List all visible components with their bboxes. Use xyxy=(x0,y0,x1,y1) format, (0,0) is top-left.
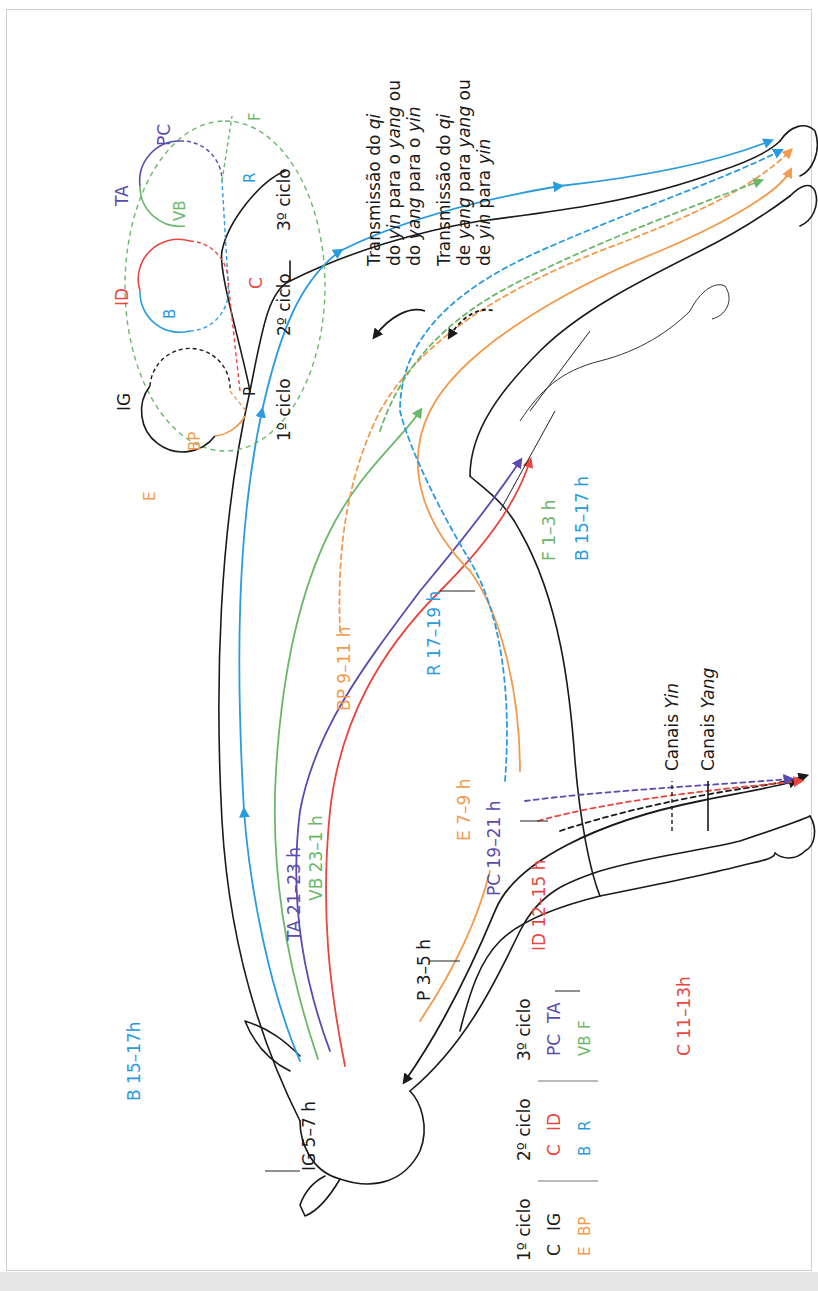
cycle-table: 1º ciclo 2º ciclo 3º ciclo C IG E BP C I… xyxy=(514,998,598,1261)
label-IG: IG 5–7 h xyxy=(299,1101,319,1171)
channel-paths xyxy=(239,141,805,1081)
node-P: P xyxy=(241,387,259,396)
node-R: R xyxy=(241,173,259,183)
table-header-1: 1º ciclo xyxy=(514,1198,534,1261)
solid-curved-arrow-icon xyxy=(375,310,425,336)
cell-E: E xyxy=(576,1247,594,1256)
table-header-3: 3º ciclo xyxy=(514,998,534,1061)
node-E: E xyxy=(141,492,159,501)
label-B-hind: B 15–17 h xyxy=(572,476,592,561)
node-C: C xyxy=(246,277,266,289)
solid-transmission-line1: Transmissão do qi xyxy=(364,113,384,267)
label-PC: PC 19–21 h xyxy=(484,801,504,896)
label-C: C 11–13h xyxy=(674,976,694,1056)
solid-transmission-line3: do yang para o yin xyxy=(404,107,424,266)
dashed-curved-arrow-icon xyxy=(450,310,495,336)
label-E: E 7–9 h xyxy=(454,779,474,841)
node-TA: TA xyxy=(112,185,132,207)
dashed-transmission-line3: de yin para yin xyxy=(474,139,494,266)
node-VB: VB xyxy=(171,200,189,221)
label-R: R 17–19 h xyxy=(424,591,444,676)
cell-PC: PC xyxy=(544,1034,564,1056)
cell-VB: VB xyxy=(576,1035,594,1056)
dashed-transmission-line1: Transmissão do qi xyxy=(434,113,454,267)
cycle1-label: 1º ciclo xyxy=(274,378,294,441)
transmission-legend: Transmissão do qi do yin para o yang ou … xyxy=(364,79,495,336)
label-BP: BP 9–11 h xyxy=(334,627,354,711)
legend-yang: Canais Yang xyxy=(698,668,718,771)
label-VB: VB 23–1 h xyxy=(306,815,326,901)
label-P: P 3–5 h xyxy=(414,939,434,1001)
legend-yin: Canais Yin xyxy=(662,683,682,771)
node-BP: BP xyxy=(186,432,204,451)
cycle3-label: 3º ciclo xyxy=(274,168,294,231)
table-header-2: 2º ciclo xyxy=(514,1098,534,1161)
label-TA: TA 21–23 h xyxy=(284,847,304,942)
cell-BP: BP xyxy=(576,1217,594,1236)
line-type-legend: Canais Yin Canais Yang xyxy=(662,668,718,831)
label-ID: ID 12–15 h xyxy=(529,860,549,951)
solid-transmission-line2: do yin para o yang ou xyxy=(384,80,404,266)
label-F: F 1–3 h xyxy=(539,500,559,562)
node-IG: IG xyxy=(114,393,134,411)
channel-labels: B 15–17h TA 21–23 h VB 23–1 h BP 9–11 h … xyxy=(124,331,694,1171)
label-B-back: B 15–17h xyxy=(124,1021,144,1101)
meridian-clock-diagram: IG P BP E ID B C TA VB PC R F 1º ciclo 2… xyxy=(0,0,818,1291)
node-PC: PC xyxy=(154,124,174,146)
node-B: B xyxy=(161,309,179,319)
cell-F: F xyxy=(576,1020,594,1029)
cell-R: R xyxy=(576,1121,594,1131)
cell-C1: C xyxy=(544,1244,564,1256)
cell-C2: C xyxy=(544,1144,564,1156)
cell-ID: ID xyxy=(544,1113,564,1131)
node-ID: ID xyxy=(112,288,132,306)
cycle2-label: 2º ciclo xyxy=(274,273,294,336)
cell-TA: TA xyxy=(544,1002,564,1024)
node-F: F xyxy=(246,112,264,121)
cell-B: B xyxy=(576,1146,594,1156)
cycle-schematic: IG P BP E ID B C TA VB PC R F 1º ciclo 2… xyxy=(112,112,325,501)
dashed-transmission-line2: de yang para yang ou xyxy=(454,79,474,266)
cell-IG: IG xyxy=(544,1213,564,1231)
